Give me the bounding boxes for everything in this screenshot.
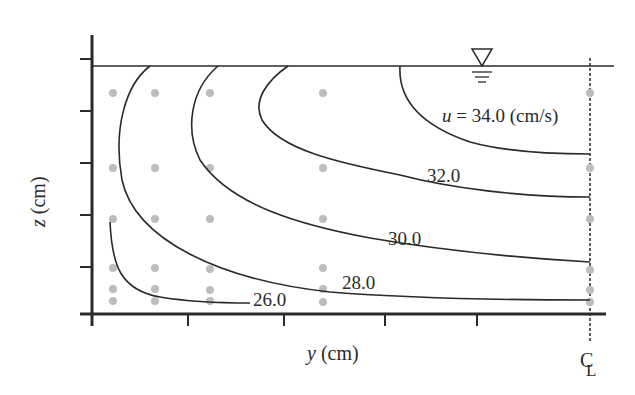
contour-chart <box>0 0 635 395</box>
contour-32 <box>259 66 590 197</box>
contour-label-34-text: = 34.0 (cm/s) <box>452 105 559 126</box>
y-axis-label-unit: (cm) <box>27 176 49 219</box>
y-axis-label-var: z <box>27 219 49 227</box>
y-axis-label: z (cm) <box>28 176 48 227</box>
contour-label-34-var: u <box>442 105 452 126</box>
contour-label-26: 26.0 <box>253 290 286 309</box>
contour-lines <box>110 66 590 303</box>
contour-28 <box>119 66 590 300</box>
x-axis-label-var: y <box>307 342 316 364</box>
x-axis-ticks <box>92 314 477 326</box>
x-axis-label-unit: (cm) <box>316 342 359 364</box>
contour-label-34: u = 34.0 (cm/s) <box>442 106 558 125</box>
centerline-symbol-l: L <box>586 362 596 379</box>
water-surface <box>92 49 614 82</box>
x-axis-label: y (cm) <box>307 343 359 363</box>
contour-label-28: 28.0 <box>342 273 375 292</box>
contour-label-30: 30.0 <box>388 229 421 248</box>
water-surface-triangle-icon <box>472 49 492 66</box>
contour-label-32: 32.0 <box>427 166 460 185</box>
y-axis-ticks <box>80 59 92 267</box>
contour-26 <box>110 222 250 303</box>
